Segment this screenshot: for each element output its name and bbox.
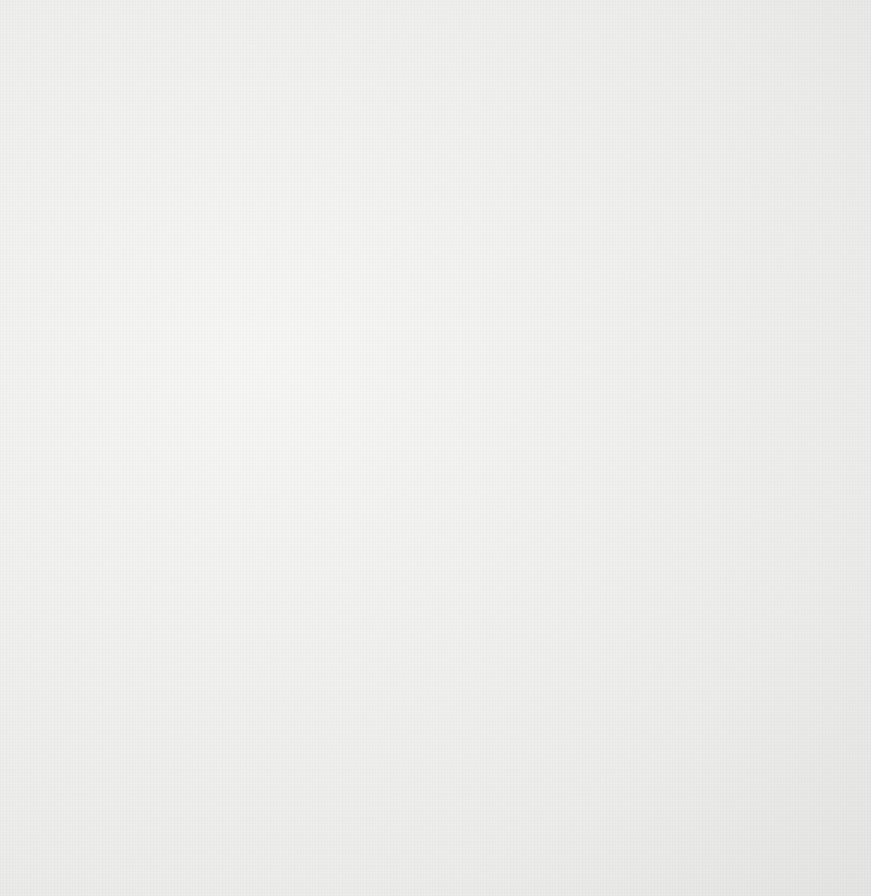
fly-illustration-gray-vestigial	[240, 461, 483, 589]
parent-female-title-line3: ailes normales)	[784, 36, 801, 206]
parent-male-title-line1: CORPS NOIR À	[782, 690, 799, 870]
row-header-observed: RÉSULTATS OBTENUS	[24, 22, 76, 172]
phenotype-label-3-line1: NOIR-	[465, 602, 480, 718]
parent-fly-illustration-female	[540, 196, 750, 376]
parent-female-genotype: b+ b vg+ vg	[735, 88, 753, 208]
phenotype-label-3-line2: NORMALES	[448, 602, 463, 718]
cross-multiply-symbol: ×	[663, 430, 673, 450]
cell-expected-3: 575	[190, 594, 236, 724]
genotype-label-1: b b vg vg	[247, 336, 264, 452]
cell-expected-0: 575	[190, 192, 236, 322]
phenotype-card-0	[240, 195, 483, 323]
phenotype-label-2-line1: GRIS-	[465, 469, 480, 585]
phenotype-card-3	[240, 594, 483, 722]
row-header-expected: RÉSULTATS ATTENDUS (assortiment indépend…	[86, 20, 138, 220]
cell-expected-2: 575	[190, 460, 236, 590]
phenotype-label-0-line1: PHÉNOTYPE	[465, 200, 480, 316]
cell-observed-2: 206	[62, 450, 108, 569]
phenotype-label-1-line2: VESTIGIALES	[448, 336, 463, 452]
page-edge-right	[845, 0, 871, 896]
phenotype-card-1	[240, 328, 483, 456]
figure-page: RÉSULTATS ATTENDUS (assortiment indépend…	[0, 0, 871, 896]
parent-female-sex-symbol: ♀	[699, 140, 720, 180]
fly-illustration-gray-normal	[240, 195, 483, 323]
parent-male-title-line2: AILES VESTIGIALES	[763, 690, 780, 870]
phenotype-label-1-line1: NOIR-	[465, 336, 480, 452]
row-header-observed-line2: OBTENUS	[23, 45, 40, 122]
parent-male-genotype: b b vg vg	[712, 700, 730, 820]
cell-observed-3: 185	[62, 573, 108, 692]
page-edge-top	[0, 0, 871, 8]
parent-female-title-line1: PHÉNOTYPE SAUVAGE	[822, 36, 839, 206]
phenotype-label-0-line2: SAUVAGE	[448, 200, 463, 316]
phenotype-label-2-line2: VESTIGIALES	[448, 469, 463, 585]
genotype-label-3: b b vg+ vg	[247, 602, 264, 718]
parent-fly-illustration-male	[560, 522, 760, 692]
page-edge-bottom	[0, 872, 871, 896]
parent-male-sex-symbol: ♂	[676, 748, 697, 788]
genotype-label-2: b+ b vg vg	[247, 469, 264, 585]
parent-female-title-line2: (corps gris à	[803, 36, 820, 206]
cell-expected-1: 575	[190, 326, 236, 456]
arrowhead-icon	[496, 434, 518, 450]
phenotype-card-2	[240, 461, 483, 589]
fly-illustration-black-normal	[240, 594, 483, 722]
cell-observed-0: 965	[62, 204, 108, 323]
fly-illustration-black-vestigial	[240, 328, 483, 456]
cell-observed-1: 944	[62, 327, 108, 446]
genotype-label-0: b+ b vg+ vg	[247, 200, 264, 316]
